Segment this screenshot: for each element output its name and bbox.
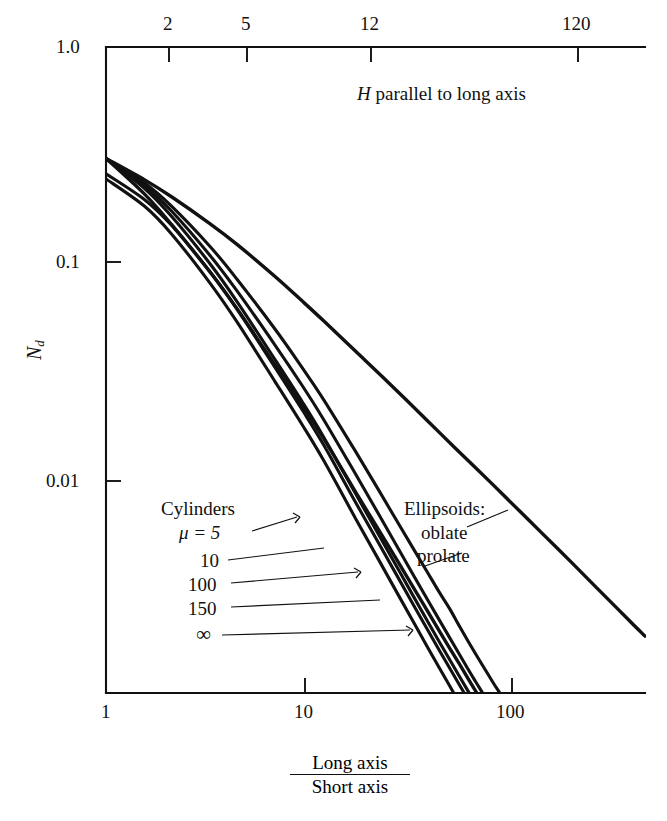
y-tick-label-0.1: 0.1 [56,252,80,271]
y-axis-title-base: N [23,347,45,360]
legend-cylinders-entry-mu-5: μ = 5 [179,523,220,542]
x-axis-title: Long axis Short axis [290,752,410,798]
x-top-tick-label-12: 12 [360,14,379,33]
x-top-tick-label-120: 120 [562,14,591,33]
y-axis-title: Nd [24,340,46,360]
x-bottom-tick-label-100: 100 [496,702,525,721]
x-bottom-tick-label-10: 10 [294,702,313,721]
legend-ellipsoids-title: Ellipsoids: [404,499,485,518]
chart-background [0,0,667,821]
top-annotation-symbol: H [357,83,371,104]
demagnetizing-factor-chart: 2 5 12 120 1.0 0.1 0.01 1 10 100 Nd H pa… [0,0,667,821]
legend-cylinders-entry-infinity: ∞ [196,624,211,645]
x-axis-title-numerator: Long axis [290,752,410,774]
legend-ellipsoids-entry-oblate: oblate [421,523,467,542]
y-axis-title-subscript: d [32,340,47,347]
legend-cylinders-title: Cylinders [161,499,235,518]
x-bottom-tick-label-1: 1 [101,702,111,721]
y-tick-label-0.01: 0.01 [46,471,79,490]
x-top-tick-label-2: 2 [163,14,173,33]
y-tick-label-1.0: 1.0 [56,37,80,56]
legend-cylinders-entry-150: 150 [188,599,217,618]
legend-cylinders-entry-10: 10 [200,551,219,570]
top-annotation-text: parallel to long axis [371,83,526,104]
legend-cylinders-entry-100: 100 [188,575,217,594]
x-top-tick-label-5: 5 [241,14,251,33]
legend-mu-5-label: μ = 5 [179,522,220,543]
legend-ellipsoids-entry-prolate: prolate [417,546,470,565]
chart-canvas [0,0,667,821]
x-axis-title-denominator: Short axis [290,774,410,797]
top-annotation: H parallel to long axis [357,84,526,103]
